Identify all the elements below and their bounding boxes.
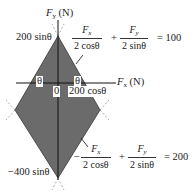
upper-eq-plus: + — [111, 33, 117, 44]
lower-eq-term1: Fx 2 cosθ — [81, 144, 111, 170]
angle-label-right: θ — [74, 76, 81, 87]
angle-label-left: θ — [36, 76, 43, 87]
top-vertex-label: 200 sinθ — [16, 32, 52, 43]
y-axis-label: Fy (N) — [46, 8, 73, 20]
upper-eq-term2: Fy 2 sinθ — [120, 25, 148, 51]
lower-eq-rhs: = 200 — [164, 152, 188, 163]
lower-eq-plus: + — [119, 152, 125, 163]
origin-label: 0 — [53, 86, 60, 97]
x-axis-label: Fx (N) — [117, 77, 144, 89]
lower-eq-term2: Fy 2 sinθ — [128, 144, 156, 170]
upper-eq-rhs: = 100 — [157, 33, 181, 44]
x-intercept-label: 200 cosθ — [68, 86, 107, 97]
bottom-vertex-label: −400 sinθ — [8, 167, 50, 178]
lower-eq-sign: − — [74, 152, 80, 163]
upper-pointer — [76, 55, 83, 64]
upper-eq-term1: Fx 2 cosθ — [72, 25, 102, 51]
